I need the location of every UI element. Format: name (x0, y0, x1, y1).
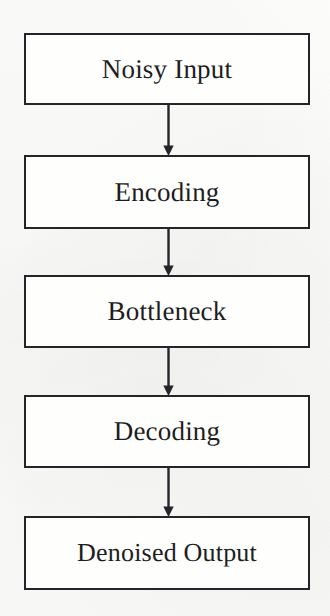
connector-decoding-to-denoised-output (163, 467, 174, 517)
flowchart-node-denoised-output: Denoised Output (24, 516, 310, 590)
node-label: Encoding (114, 179, 219, 206)
connector-encoding-to-bottleneck (163, 228, 174, 276)
node-label: Decoding (114, 418, 221, 445)
node-label: Bottleneck (108, 298, 227, 325)
node-label: Denoised Output (77, 540, 257, 566)
flowchart-node-decoding: Decoding (24, 395, 310, 468)
flowchart-diagram: Noisy Input Encoding Bottleneck Decoding (0, 0, 330, 616)
connector-noisy-input-to-encoding (163, 104, 174, 156)
flowchart-node-encoding: Encoding (24, 155, 310, 229)
flowchart-node-noisy-input: Noisy Input (24, 33, 310, 105)
node-label: Noisy Input (102, 56, 232, 83)
connector-bottleneck-to-decoding (163, 347, 174, 396)
flowchart-node-bottleneck: Bottleneck (24, 275, 310, 348)
